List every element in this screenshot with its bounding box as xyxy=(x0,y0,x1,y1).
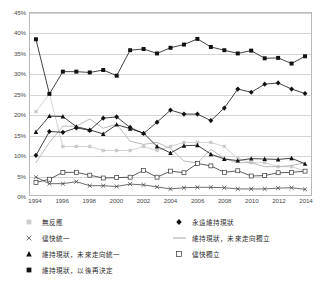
series-5 xyxy=(34,161,307,184)
x-axis-tick-label: 2002 xyxy=(137,197,150,204)
x-axis-tick-label: 2012 xyxy=(272,197,285,204)
legend-item[interactable]: 永遠維持現狀 xyxy=(172,214,270,230)
legend-item-label: 永遠維持現狀 xyxy=(192,217,235,227)
chart-legend: 無反應儘快統一維持現狀，未來走向統一維持現狀，以後再決定 永遠維持現狀維持現狀，… xyxy=(0,214,320,285)
plot-area: 45%40%35%30%25%20%15%10%5%0% xyxy=(0,0,320,212)
plot-frame xyxy=(29,12,312,196)
y-axis-tick-label: 20% xyxy=(14,111,26,118)
x-axis-tick-label: 2008 xyxy=(218,197,231,204)
open-square-icon xyxy=(172,249,188,259)
legend-item[interactable]: 無反應 xyxy=(22,214,120,230)
legend-column-right: 永遠維持現狀維持現狀，未來走向獨立儘快獨立 xyxy=(172,214,270,262)
filled-triangle-icon xyxy=(22,249,38,259)
x-axis-tick-label: 1994 xyxy=(28,197,41,204)
series-2 xyxy=(34,114,308,166)
line-icon xyxy=(172,233,188,243)
y-axis-tick-label: 40% xyxy=(14,29,26,36)
x-axis-tick-label: 2010 xyxy=(245,197,258,204)
legend-item-label: 維持現狀，未來走向統一 xyxy=(42,249,120,259)
y-axis-tick-label: 10% xyxy=(14,152,26,159)
y-axis-tick-label: 35% xyxy=(14,49,26,56)
x-axis-tick-label: 1996 xyxy=(55,197,68,204)
legend-item[interactable]: 儘快統一 xyxy=(22,230,120,246)
legend-item[interactable]: 儘快獨立 xyxy=(172,246,270,262)
legend-item[interactable]: 維持現狀，以後再決定 xyxy=(22,262,120,278)
y-axis-tick-label: 5% xyxy=(17,172,26,179)
legend-item-label: 維持現狀，以後再決定 xyxy=(42,265,113,275)
legend-item[interactable]: 維持現狀，未來走向獨立 xyxy=(172,230,270,246)
filled-square-icon xyxy=(22,265,38,275)
faint-square-icon xyxy=(22,217,38,227)
x-axis-tick-label: 2000 xyxy=(110,197,123,204)
legend-column-left: 無反應儘快統一維持現狀，未來走向統一維持現狀，以後再決定 xyxy=(22,214,120,278)
y-axis-tick-label: 30% xyxy=(14,70,26,77)
y-axis: 45%40%35%30%25%20%15%10%5%0% xyxy=(0,12,28,196)
legend-item-label: 無反應 xyxy=(42,217,63,227)
x-cross-icon xyxy=(22,233,38,243)
x-axis-tick-label: 2004 xyxy=(164,197,177,204)
x-axis-tick-label: 1998 xyxy=(83,197,96,204)
legend-item-label: 維持現狀，未來走向獨立 xyxy=(192,233,270,243)
y-axis-tick-label: 0% xyxy=(17,193,26,200)
x-axis-tick-label: 2006 xyxy=(191,197,204,204)
y-axis-tick-label: 45% xyxy=(14,9,26,16)
series-0 xyxy=(34,37,307,96)
legend-item[interactable]: 維持現狀，未來走向統一 xyxy=(22,246,120,262)
y-axis-tick-label: 15% xyxy=(14,131,26,138)
chart-root: 45%40%35%30%25%20%15%10%5%0% 19941996199… xyxy=(0,0,320,285)
legend-item-label: 儘快統一 xyxy=(42,233,70,243)
y-axis-tick-label: 25% xyxy=(14,90,26,97)
x-axis: 1994199619982000200220042006200820102012… xyxy=(29,197,312,211)
filled-diamond-icon xyxy=(172,217,188,227)
series-layer xyxy=(30,13,311,195)
x-axis-tick-label: 2014 xyxy=(299,197,312,204)
legend-item-label: 儘快獨立 xyxy=(192,249,220,259)
